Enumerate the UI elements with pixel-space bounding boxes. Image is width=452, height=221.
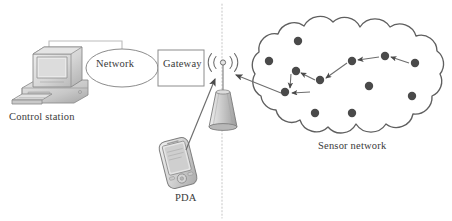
network-label: Network [96, 58, 134, 69]
desktop-computer-icon [12, 47, 88, 104]
sensor-node [311, 109, 319, 117]
link-pda-to-base-station [186, 79, 215, 150]
sensor-node [265, 57, 273, 65]
sensor-node [365, 82, 373, 90]
sensor-node [408, 92, 416, 100]
gateway-label: Gateway [163, 58, 202, 69]
pda-label: PDA [175, 192, 197, 203]
sensor-node [411, 59, 419, 67]
sensor-network-cloud [252, 16, 443, 133]
sensor-node [294, 37, 302, 45]
sensor-node [348, 57, 356, 65]
pda-handheld-icon [158, 136, 199, 190]
sensor-node [381, 52, 389, 60]
control-station-label: Control station [9, 111, 75, 122]
sensor-node [348, 109, 356, 117]
sensor-node [281, 88, 289, 96]
sensor-node [292, 67, 300, 75]
network-architecture-diagram: Network Gateway Control station PDA Sens… [0, 0, 452, 221]
sensor-node [316, 76, 324, 84]
antenna-tower-icon [209, 60, 237, 130]
sensor-network-label: Sensor network [318, 140, 386, 151]
